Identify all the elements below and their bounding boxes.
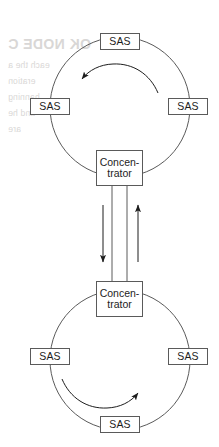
node-label-line2: trator xyxy=(107,299,132,310)
lower-ring-sas-bottom[interactable]: SAS xyxy=(100,416,140,433)
diagram-linework xyxy=(0,0,219,447)
node-label-line2: trator xyxy=(107,168,132,179)
node-label: SAS xyxy=(39,101,61,112)
lower-ring-sas-left[interactable]: SAS xyxy=(30,348,70,365)
node-label: SAS xyxy=(109,419,131,430)
lower-ring-direction-arrow xyxy=(62,379,138,408)
lower-ring-sas-right[interactable]: SAS xyxy=(168,348,208,365)
upper-ring-concentrator[interactable]: Concen- trator xyxy=(96,150,143,186)
upper-ring-direction-arrow xyxy=(82,64,158,93)
node-label: SAS xyxy=(109,36,131,47)
lower-ring-concentrator[interactable]: Concen- trator xyxy=(96,281,143,317)
node-label: SAS xyxy=(39,351,61,362)
node-label: SAS xyxy=(177,351,199,362)
upper-ring-sas-right[interactable]: SAS xyxy=(168,98,208,115)
upper-ring-sas-left[interactable]: SAS xyxy=(30,98,70,115)
network-diagram: OK NODE Ceach the aerationhanningand hea… xyxy=(0,0,219,447)
upper-ring-sas-top[interactable]: SAS xyxy=(100,33,140,50)
node-label: SAS xyxy=(177,101,199,112)
